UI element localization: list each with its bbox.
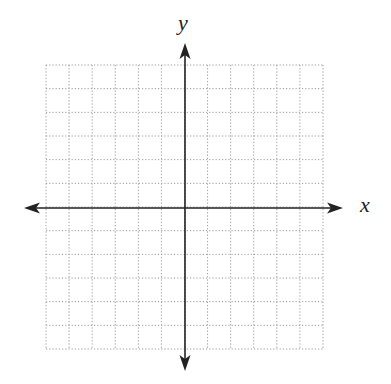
coordinate-plane [0, 0, 391, 384]
x-axis-label: x [360, 194, 370, 216]
y-axis-label: y [178, 12, 188, 34]
